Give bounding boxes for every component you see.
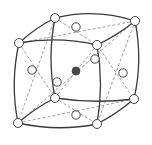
crystal-unit-cell-diagram xyxy=(0,0,152,145)
body-center-atom xyxy=(72,67,80,75)
corner-atom xyxy=(14,119,23,128)
face-center-atom-back xyxy=(53,78,61,86)
corner-atom xyxy=(51,14,60,23)
face-center-atom-front xyxy=(91,55,99,63)
corner-atom xyxy=(93,41,102,50)
corner-atom xyxy=(15,39,24,48)
face-center-atom-left xyxy=(28,66,36,74)
face-center-atom-top xyxy=(72,23,80,31)
corner-atom xyxy=(93,120,102,129)
face-center-atom-right xyxy=(119,69,127,77)
corner-atom xyxy=(51,94,60,103)
corner-atom xyxy=(130,95,139,104)
corner-atom xyxy=(131,17,140,26)
face-center-atom-bottom xyxy=(72,111,80,119)
